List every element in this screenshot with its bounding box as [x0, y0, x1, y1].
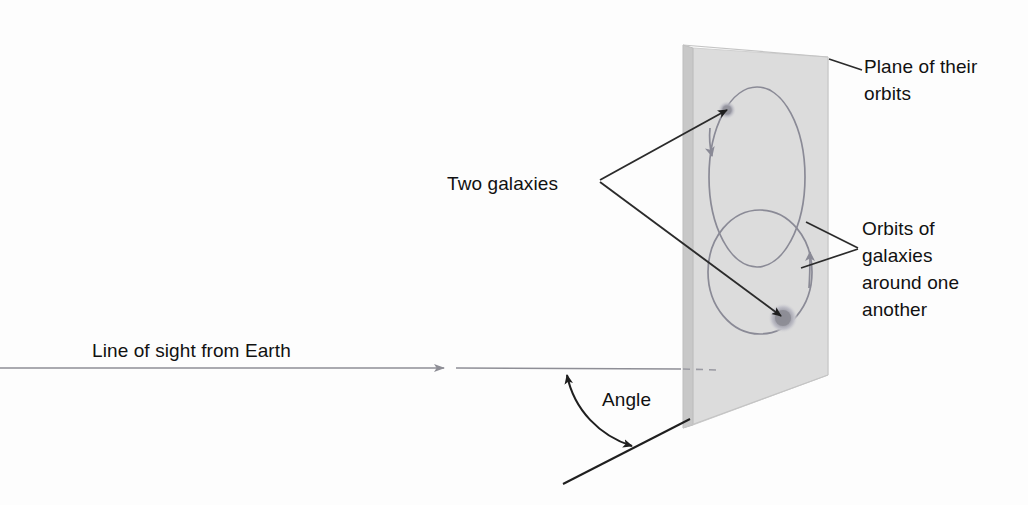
lower-orbit-direction-arrow	[809, 252, 810, 288]
label-line-of-sight-from-earth: Line of sight from Earth	[92, 337, 291, 364]
line-of-sight-dashed-in-plane	[683, 369, 718, 370]
label-plane-of-their-orbits: Plane of their orbits	[864, 53, 977, 107]
label-angle: Angle	[602, 386, 651, 413]
orbit-plane-edge-strip	[683, 45, 693, 428]
angle-slant-line	[563, 419, 690, 484]
line-of-sight-group	[0, 368, 718, 370]
orbit-plane-face	[693, 48, 828, 425]
label-orbits-of-galaxies-around-one-another: Orbits of galaxies around one another	[862, 215, 959, 323]
label-two-galaxies: Two galaxies	[447, 170, 558, 197]
line-of-sight-continuation	[456, 368, 681, 369]
figure-canvas: Plane of their orbits Two galaxies Orbit…	[0, 0, 1028, 505]
leader-plane-of-orbits	[829, 59, 862, 70]
orbit-plane-group	[683, 45, 828, 428]
